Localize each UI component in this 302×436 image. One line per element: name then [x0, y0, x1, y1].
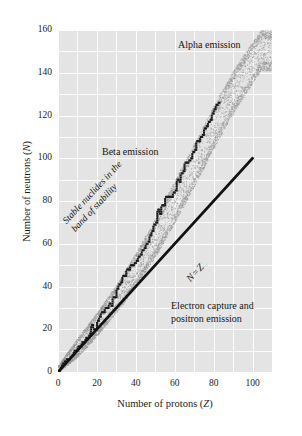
y-axis-title-close: ): [21, 141, 32, 145]
band-of-stability-chart: Alpha emission Beta emission Electron ca…: [0, 0, 302, 436]
y-tick-label: 20: [26, 325, 52, 335]
x-axis-title-text: Number of protons (: [117, 398, 203, 409]
y-axis-symbol: N: [21, 144, 32, 151]
y-axis-title-text: Number of neutrons (: [21, 151, 32, 242]
x-axis-title-close: ): [209, 398, 213, 409]
plot-area: Alpha emission Beta emission Electron ca…: [58, 30, 272, 372]
x-tick-label: 0: [56, 379, 61, 389]
x-tick-label: 60: [170, 379, 180, 389]
y-tick-label: 0: [26, 367, 52, 377]
x-axis-title: Number of protons (Z): [58, 398, 272, 409]
chart-data-layer: [58, 30, 272, 372]
x-tick-label: 80: [209, 379, 219, 389]
x-tick-label: 40: [131, 379, 141, 389]
y-axis-title: Number of neutrons (N): [21, 82, 32, 302]
y-tick-label: 160: [26, 25, 52, 35]
x-tick-label: 100: [245, 379, 259, 389]
x-tick-label: 20: [92, 379, 102, 389]
y-tick-label: 140: [26, 68, 52, 78]
n-equals-z-line: [58, 158, 253, 372]
